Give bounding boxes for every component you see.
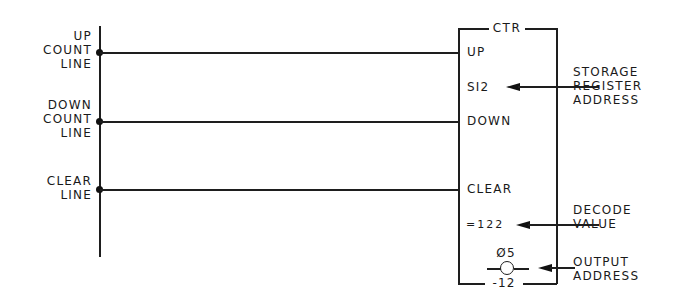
block-top-right-border <box>525 28 557 30</box>
down-count-rung <box>100 121 458 123</box>
coil-right-lead <box>514 268 529 270</box>
output-address-callout: OUTPUT ADDRESS <box>573 255 639 283</box>
output-coil-icon <box>500 261 514 275</box>
block-right-border <box>556 28 558 284</box>
input-clear-label: CLEAR <box>467 182 512 196</box>
clear-line-label: CLEAR LINE <box>47 174 92 202</box>
up-count-line-label: UP COUNT LINE <box>43 29 92 71</box>
output-address-arrow-shaft <box>550 267 575 269</box>
coil-left-lead <box>487 268 501 270</box>
input-up-label: UP <box>467 45 485 59</box>
down-count-line-label: DOWN COUNT LINE <box>43 98 92 140</box>
up-count-rung <box>100 52 458 54</box>
storage-register-address-callout: STORAGE REGISTER ADDRESS <box>573 65 642 107</box>
block-bottom-right-border <box>523 283 557 285</box>
decode-value-callout: DECODE VALUE <box>573 203 632 231</box>
left-power-rail <box>99 26 101 257</box>
block-top-left-border <box>458 28 489 30</box>
input-down-label: DOWN <box>467 114 511 128</box>
output-address-bottom: -12 <box>489 276 519 290</box>
block-bottom-left-border <box>458 283 485 285</box>
clear-rung <box>100 189 458 191</box>
decode-value: =122 <box>466 218 504 232</box>
block-title: CTR <box>492 21 522 35</box>
output-address-top: Ø5 <box>492 246 520 260</box>
block-left-border <box>458 28 460 284</box>
storage-register-value: SI2 <box>467 80 489 94</box>
